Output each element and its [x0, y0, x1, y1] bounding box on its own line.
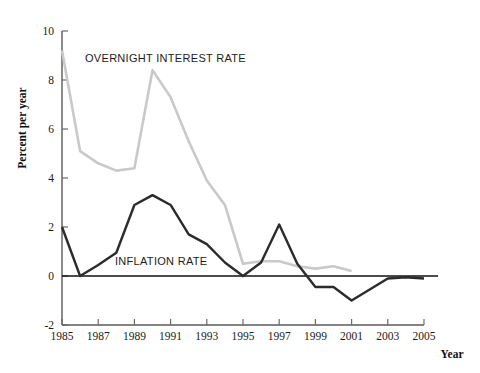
- line-chart: -202468101985198719891991199319951997199…: [0, 0, 480, 373]
- y-tick-label-2: 2: [48, 221, 54, 233]
- x-axis-title: Year: [441, 348, 464, 360]
- y-tick-label-6: 6: [48, 123, 54, 135]
- x-tick-label-2001: 2001: [340, 330, 363, 342]
- x-tick-label-1995: 1995: [232, 330, 255, 342]
- y-tick-label-4: 4: [48, 172, 54, 184]
- x-tick-label-1987: 1987: [87, 330, 110, 342]
- chart-figure: -202468101985198719891991199319951997199…: [0, 0, 480, 373]
- y-tick-label-8: 8: [48, 74, 54, 86]
- x-tick-label-1997: 1997: [268, 330, 291, 342]
- x-tick-label-2005: 2005: [413, 330, 436, 342]
- x-tick-label-1999: 1999: [304, 330, 327, 342]
- x-tick-label-1993: 1993: [195, 330, 218, 342]
- y-axis-title: Percent per year: [16, 87, 29, 168]
- x-tick-label-1985: 1985: [51, 330, 74, 342]
- y-tick-label-0: 0: [48, 270, 54, 282]
- series-line-inflation-rate: [62, 195, 424, 300]
- x-tick-label-2003: 2003: [376, 330, 399, 342]
- x-tick-label-1989: 1989: [123, 330, 146, 342]
- x-tick-label-1991: 1991: [159, 330, 182, 342]
- series-line-overnight-interest-rate: [62, 51, 352, 272]
- series-annotation-inflation-rate: INFLATION RATE: [115, 255, 207, 267]
- y-tick-label-10: 10: [43, 25, 55, 37]
- series-annotation-overnight-interest-rate: OVERNIGHT INTEREST RATE: [85, 52, 246, 64]
